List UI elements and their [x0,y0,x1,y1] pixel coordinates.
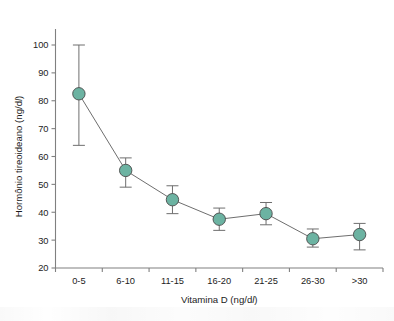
x-tick-label->30: >30 [352,276,368,286]
x-tick-label-26-30: 26-30 [301,276,325,286]
data-point-6-10 [119,164,131,176]
x-tick-label-11-15: 11-15 [161,276,184,286]
y-tick-label-60: 60 [38,152,48,162]
data-point-21-25 [260,207,272,219]
y-tick-label-40: 40 [38,208,48,218]
y-tick-label-30: 30 [38,236,48,246]
y-tick-label-80: 80 [38,96,48,106]
x-tick-label-0-5: 0-5 [72,276,85,286]
data-point->30 [353,228,365,240]
axes [56,29,384,268]
x-tick-label-21-25: 21-25 [254,276,278,286]
chart-figure: 2030405060708090100 0-56-1011-1516-2021-… [0,0,394,321]
data-point-16-20 [213,213,225,225]
data-point-11-15 [166,194,178,206]
data-point-0-5 [73,88,85,100]
line-chart-with-error-bars: 2030405060708090100 0-56-1011-1516-2021-… [0,0,394,321]
y-tick-label-20: 20 [38,263,48,273]
x-axis-title: Vitamina D (ng/dl) [181,294,258,305]
data-markers [73,88,366,245]
y-tick-label-100: 100 [33,40,49,50]
data-point-26-30 [307,233,319,245]
y-tick-label-90: 90 [38,68,48,78]
data-series [73,45,366,250]
x-axis-ticks: 0-56-1011-1516-2021-2526-30>30 [56,268,384,286]
y-axis-title: Hormônio tireoideano (ng/dl) [13,96,24,218]
y-axis-ticks: 2030405060708090100 [33,40,56,273]
x-tick-label-6-10: 6-10 [116,276,135,286]
y-tick-label-70: 70 [38,124,48,134]
y-tick-label-50: 50 [38,180,48,190]
x-tick-label-16-20: 16-20 [207,276,231,286]
